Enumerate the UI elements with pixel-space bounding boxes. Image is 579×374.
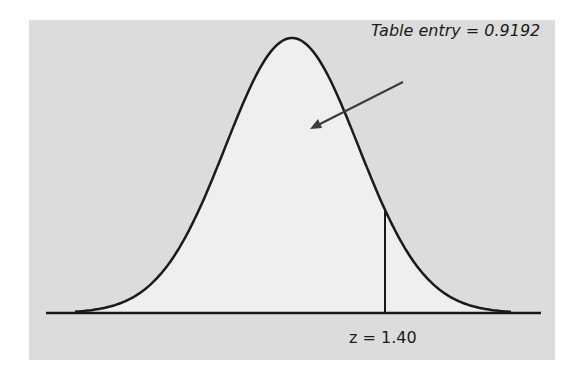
table-entry-annotation: Table entry = 0.9192 bbox=[371, 21, 540, 40]
normal-curve-diagram bbox=[0, 0, 579, 374]
area-under-curve bbox=[75, 38, 512, 313]
z-value-label: z = 1.40 bbox=[349, 328, 417, 347]
